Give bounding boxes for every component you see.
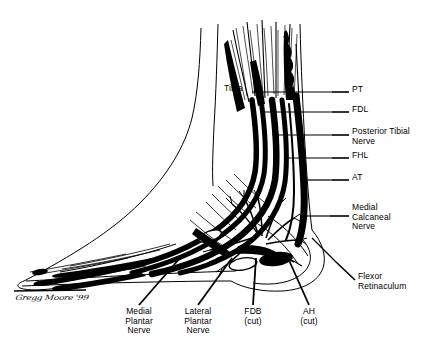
label-ah-cut: AH (cut)	[300, 307, 318, 326]
label-posterior-tibial-nerve: Posterior Tibial Nerve	[352, 127, 410, 146]
label-at: AT	[352, 173, 362, 183]
label-medial-plantar-nerve: Medial Plantar Nerve	[125, 307, 153, 336]
artist-signature: Gregg Moore '99	[15, 294, 89, 302]
label-flexor-retinaculum: Flexor Retinaculum	[358, 272, 406, 291]
signature-underline	[14, 290, 86, 291]
label-lateral-plantar-nerve: Lateral Plantar Nerve	[184, 307, 212, 336]
illustration-canvas: Tibia PT FDL Posterior Tibial Nerve FHL …	[0, 0, 425, 353]
label-fdl: FDL	[352, 105, 368, 115]
label-medial-calcaneal-nerve: Medial Calcaneal Nerve	[352, 203, 391, 232]
label-fhl: FHL	[352, 151, 368, 161]
label-pt: PT	[352, 85, 363, 95]
label-fdb-cut: FDB (cut)	[244, 307, 262, 326]
label-tibia: Tibia	[224, 84, 243, 94]
